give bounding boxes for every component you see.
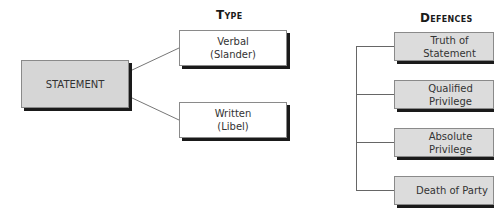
defence-qualified-label: Qualified Privilege [408,82,493,108]
type-written-line2: (Libel) [217,120,248,133]
defence-absolute-label: Absolute Privilege [408,130,493,156]
statement-box: STATEMENT [21,60,129,108]
type-box-verbal: Verbal (Slander) [179,30,287,66]
type-verbal-line1: Verbal [217,35,249,48]
defences-heading: Defences [420,11,473,25]
type-heading: Type [216,8,243,22]
defence-death-label: Death of Party [416,184,488,197]
type-box-written: Written (Libel) [179,102,287,138]
defence-box-truth: Truth of Statement [394,32,494,61]
connector-statement-written [130,97,179,120]
defence-box-qualified: Qualified Privilege [394,80,494,109]
defence-truth-label: Truth of Statement [406,34,493,60]
type-verbal-line2: (Slander) [210,48,256,61]
statement-label: STATEMENT [46,78,105,91]
type-written-line1: Written [215,107,252,120]
defence-box-absolute: Absolute Privilege [394,128,494,157]
defence-box-death: Death of Party [394,176,494,205]
connector-statement-verbal [130,48,179,71]
